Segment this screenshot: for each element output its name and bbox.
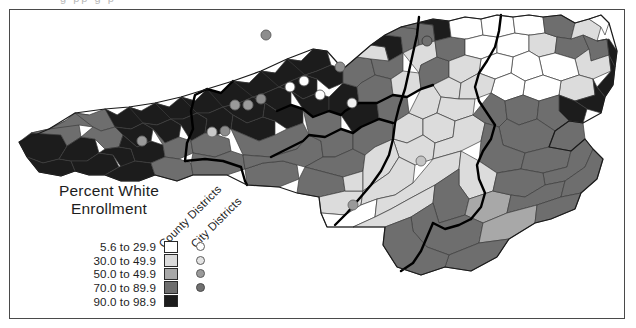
legend-class-rows: 5.6 to 29.9 30.0 to 49.9 50.0 to 49.9	[34, 240, 274, 308]
county-polygon	[513, 15, 545, 35]
legend-range-label: 70.0 to 89.9	[34, 281, 164, 294]
city-marker	[230, 100, 240, 110]
city-marker	[348, 200, 358, 210]
legend-city-dot-cell	[178, 269, 222, 278]
city-marker	[220, 126, 230, 136]
legend-range-label: 50.0 to 49.9	[34, 267, 164, 280]
legend-row: 5.6 to 29.9	[34, 240, 274, 254]
city-marker	[261, 30, 271, 40]
legend-row: 90.0 to 98.9	[34, 294, 274, 308]
legend-city-dot-cell	[178, 242, 222, 251]
legend-county-swatch	[164, 295, 178, 308]
legend-city-dot-cell	[178, 256, 222, 265]
legend-title-line1: Percent White	[34, 182, 184, 200]
city-marker	[416, 156, 426, 166]
city-marker	[347, 98, 357, 108]
city-marker	[256, 94, 266, 104]
legend-row: 30.0 to 49.9	[34, 254, 274, 268]
legend-county-swatch	[164, 281, 178, 294]
legend-city-dot	[196, 269, 205, 278]
clipped-top-text-artifact: g pp g p	[0, 0, 636, 7]
legend-row: 70.0 to 89.9	[34, 281, 274, 295]
legend-county-swatch	[164, 254, 178, 267]
map-legend: Percent White Enrollment County District…	[34, 182, 274, 317]
city-marker	[299, 76, 309, 86]
city-marker	[285, 82, 295, 92]
legend-city-dot	[196, 242, 205, 251]
legend-range-label: 30.0 to 49.9	[34, 254, 164, 267]
legend-city-dot	[196, 283, 205, 292]
legend-city-dot	[196, 256, 205, 265]
city-marker	[207, 127, 217, 137]
legend-city-dot-cell	[178, 283, 222, 292]
legend-range-label: 90.0 to 98.9	[34, 295, 164, 308]
city-marker	[137, 136, 147, 146]
legend-range-label: 5.6 to 29.9	[34, 240, 164, 253]
legend-title: Percent White Enrollment	[34, 182, 184, 218]
figure-container: g pp g p	[0, 0, 636, 328]
city-marker	[315, 90, 325, 100]
legend-county-swatch	[164, 241, 178, 254]
city-marker	[422, 36, 432, 46]
city-marker	[335, 62, 345, 72]
legend-county-swatch	[164, 268, 178, 281]
legend-title-line2: Enrollment	[34, 200, 184, 218]
city-marker	[243, 100, 253, 110]
legend-row: 50.0 to 49.9	[34, 267, 274, 281]
